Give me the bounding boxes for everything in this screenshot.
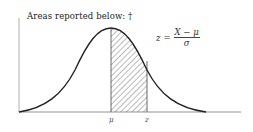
formula-lhs: z — [156, 33, 160, 43]
shaded-area — [111, 20, 147, 112]
formula-denominator: σ — [184, 38, 190, 48]
formula-numerator: X − μ — [174, 27, 200, 38]
figure-title: Areas reported below: † — [27, 11, 132, 21]
z-formula: z = X − μ σ — [156, 27, 200, 48]
normal-distribution-figure: Areas reported below: † z = X − μ σ μ z — [0, 0, 253, 132]
formula-equals: = — [163, 33, 170, 43]
mu-label: μ — [109, 116, 114, 124]
formula-fraction: X − μ σ — [174, 27, 200, 48]
z-label: z — [145, 116, 149, 124]
